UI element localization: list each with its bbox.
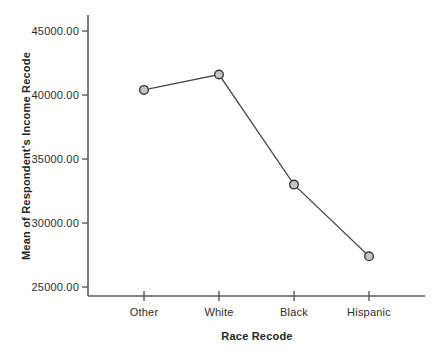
data-point-hispanic (365, 252, 374, 261)
data-point-black (290, 180, 299, 189)
data-point-white (215, 70, 224, 79)
x-tick-label-other: Other (130, 306, 159, 318)
y-tick-label: 25000.00 (32, 281, 79, 293)
x-tick-label-white: White (204, 306, 233, 318)
income-by-race-line-chart-figure: Mean of Respondent's Income Recode 25000… (0, 0, 441, 357)
x-tick-label-black: Black (280, 306, 308, 318)
y-tick-label: 45000.00 (32, 25, 79, 37)
y-tick-label: 30000.00 (32, 217, 79, 229)
line-chart-canvas: 25000.0030000.0035000.0040000.0045000.00… (0, 0, 441, 357)
data-point-other (140, 86, 149, 95)
data-line (144, 75, 369, 257)
y-tick-label: 40000.00 (32, 89, 79, 101)
x-axis-title: Race Recode (221, 330, 292, 342)
y-tick-label: 35000.00 (32, 153, 79, 165)
x-tick-label-hispanic: Hispanic (347, 306, 391, 318)
